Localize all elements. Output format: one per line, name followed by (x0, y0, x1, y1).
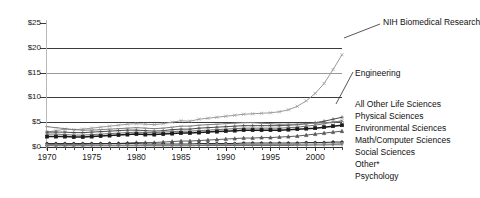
legend-label-environmental-sciences: Environmental Sciences (355, 123, 446, 133)
x-tick-mark-minor (235, 147, 236, 150)
x-tick-mark-minor (288, 147, 289, 150)
y-axis-label: $0 (15, 142, 41, 151)
x-tick-mark-major (92, 147, 93, 151)
x-tick-mark-minor (333, 147, 334, 150)
x-tick-mark-minor (74, 147, 75, 150)
x-axis-label: 1995 (250, 152, 290, 162)
x-axis-label: 1980 (116, 152, 156, 162)
gridline-20 (47, 48, 342, 49)
x-axis-label: 1985 (161, 152, 201, 162)
leader-line (344, 24, 380, 38)
x-tick-mark-minor (208, 147, 209, 150)
y-axis-label-wrap: $25 (14, 18, 41, 27)
x-tick-mark-minor (190, 147, 191, 150)
x-tick-mark-minor (279, 147, 280, 150)
x-tick-mark-minor (217, 147, 218, 150)
x-tick-mark-minor (253, 147, 254, 150)
x-tick-mark-minor (119, 147, 120, 150)
y-axis-label-wrap: $5 (14, 117, 41, 126)
x-axis-label: 1990 (206, 152, 246, 162)
legend-label-math-computer-sciences: Math/Computer Sciences (355, 135, 450, 145)
y-axis-label: $5 (15, 117, 41, 126)
x-tick-mark-minor (342, 147, 343, 150)
x-tick-mark-major (181, 147, 182, 151)
x-tick-mark-minor (297, 147, 298, 150)
x-tick-mark-major (226, 147, 227, 151)
y-axis-label: $20 (15, 43, 41, 52)
x-tick-mark-major (47, 147, 48, 151)
x-tick-mark-minor (83, 147, 84, 150)
y-axis-label-wrap: $0 (14, 142, 41, 151)
y-axis-label-wrap: $10 (14, 92, 41, 101)
legend-label-physical-sciences: Physical Sciences (355, 111, 424, 121)
x-tick-mark-minor (127, 147, 128, 150)
x-axis-label: 1975 (72, 152, 112, 162)
x-tick-mark-minor (172, 147, 173, 150)
plot-area (47, 23, 342, 147)
x-tick-mark-major (136, 147, 137, 151)
gridline-15 (47, 73, 342, 74)
x-tick-mark-minor (110, 147, 111, 150)
x-tick-mark-minor (56, 147, 57, 150)
y-axis-label-wrap: $15 (14, 68, 41, 77)
y-axis-label: $10 (15, 92, 41, 101)
x-tick-mark-minor (244, 147, 245, 150)
x-tick-mark-major (270, 147, 271, 151)
y-axis-label: $25 (15, 18, 41, 27)
legend-label-psychology: Psychology (355, 171, 398, 181)
gridline-5 (47, 122, 342, 123)
y-axis-label-wrap: $20 (14, 43, 41, 52)
x-tick-mark-minor (306, 147, 307, 150)
legend-label-nih-biomedical-research: NIH Biomedical Research (383, 17, 480, 27)
x-tick-mark-minor (199, 147, 200, 150)
gridline-10 (47, 97, 342, 98)
legend-label-other: Other* (355, 159, 380, 169)
x-tick-mark-minor (163, 147, 164, 150)
x-tick-mark-minor (65, 147, 66, 150)
x-tick-mark-minor (262, 147, 263, 150)
x-axis-label: 2000 (295, 152, 335, 162)
legend-label-all-other-life-sciences: All Other Life Sciences (355, 99, 441, 109)
x-tick-mark-minor (101, 147, 102, 150)
legend-label-social-sciences: Social Sciences (355, 147, 415, 157)
x-tick-mark-minor (145, 147, 146, 150)
legend-label-engineering: Engineering (355, 68, 400, 78)
x-tick-mark-minor (154, 147, 155, 150)
x-tick-mark-major (315, 147, 316, 151)
x-axis-label: 1970 (27, 152, 67, 162)
x-tick-mark-minor (324, 147, 325, 150)
y-axis-label: $15 (15, 68, 41, 77)
